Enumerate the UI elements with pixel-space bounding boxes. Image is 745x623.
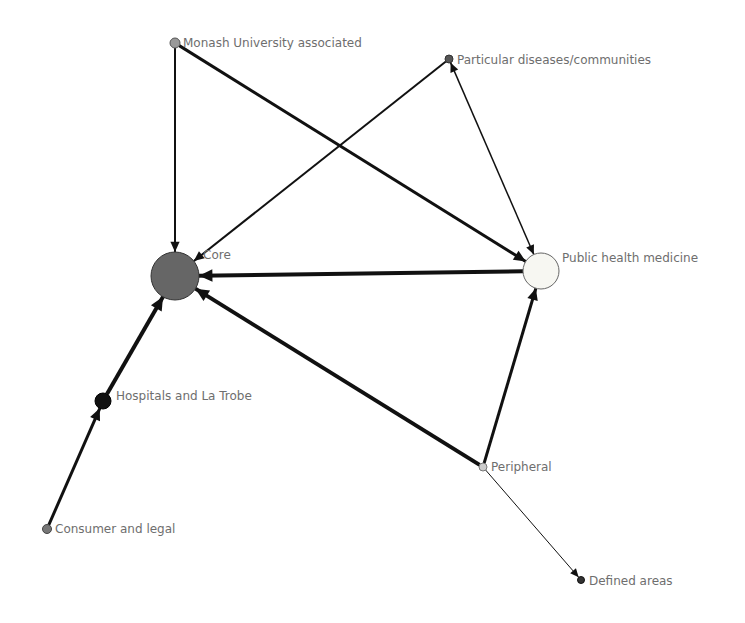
node-defined xyxy=(578,577,585,584)
labels-layer: CoreMonash University associatedParticul… xyxy=(55,36,698,588)
node-monash xyxy=(170,38,180,48)
edge-line xyxy=(195,289,479,465)
edge-particular-to-core xyxy=(194,61,446,261)
edge-line xyxy=(484,288,536,463)
edge-hospitals-to-core xyxy=(107,297,163,394)
node-label-defined: Defined areas xyxy=(589,574,673,588)
edge-particular-to-public_health xyxy=(450,63,533,255)
node-label-peripheral: Peripheral xyxy=(491,460,552,474)
edge-public_health-to-core xyxy=(199,269,523,281)
arrowhead-icon xyxy=(199,269,212,281)
network-diagram: CoreMonash University associatedParticul… xyxy=(0,0,745,623)
edge-line xyxy=(107,297,163,394)
node-public_health xyxy=(523,253,559,289)
edge-line xyxy=(451,63,534,255)
edge-peripheral-to-public_health xyxy=(484,288,538,463)
node-hospitals xyxy=(95,393,111,409)
node-label-public_health: Public health medicine xyxy=(562,251,698,265)
node-particular xyxy=(445,55,453,63)
edge-peripheral-to-core xyxy=(195,289,479,465)
arrowhead-icon xyxy=(170,242,179,252)
edge-peripheral-to-defined xyxy=(486,470,579,577)
edge-consumer-to-hospitals xyxy=(49,408,100,525)
edge-line xyxy=(194,61,446,261)
node-peripheral xyxy=(479,463,487,471)
edge-line xyxy=(179,46,525,262)
node-core xyxy=(151,252,199,300)
node-label-particular: Particular diseases/communities xyxy=(457,53,651,67)
edge-monash-to-core xyxy=(170,48,179,252)
node-label-monash: Monash University associated xyxy=(183,36,362,50)
node-consumer xyxy=(43,525,52,534)
edge-line xyxy=(49,408,100,525)
edges-layer xyxy=(49,46,579,578)
node-label-core: Core xyxy=(203,248,231,262)
node-label-consumer: Consumer and legal xyxy=(55,522,175,536)
node-label-hospitals: Hospitals and La Trobe xyxy=(116,389,252,403)
edge-line xyxy=(199,271,523,275)
edge-line xyxy=(486,470,579,577)
nodes-layer xyxy=(43,38,585,584)
edge-monash-to-public_health xyxy=(179,46,525,262)
